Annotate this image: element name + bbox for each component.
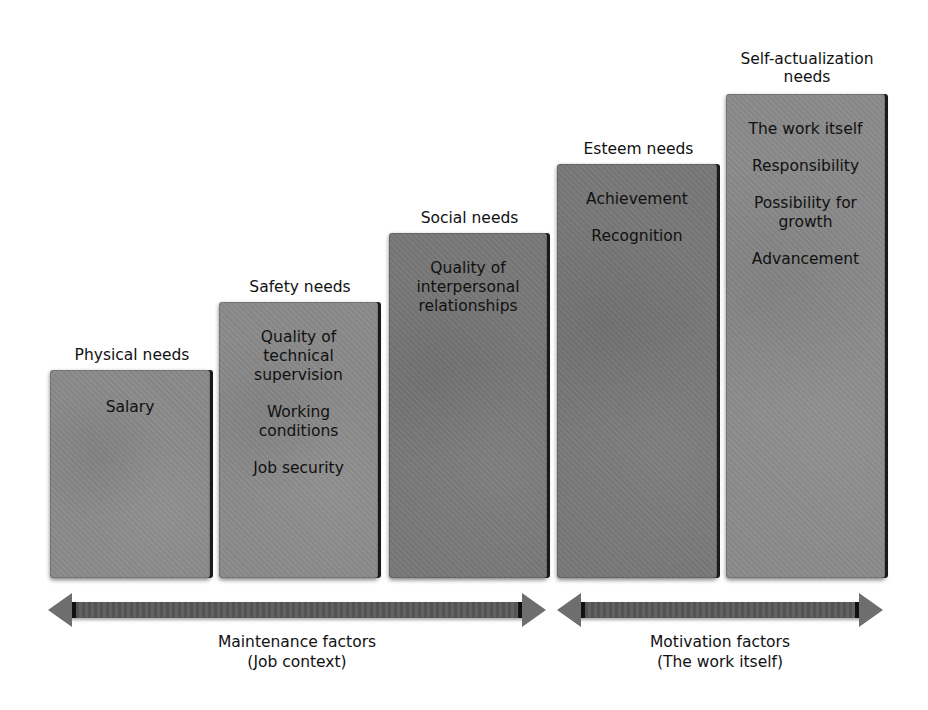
arrow-head-right-icon [859,593,883,627]
step-item: Quality of technical supervision [244,328,354,385]
step-item: The work itself [726,120,885,139]
step-label-social-needs: Social needs [389,209,550,227]
maintenance-factors-label: Maintenance factors (Job context) [48,632,546,672]
arrow-shaft [579,602,861,618]
step-item: Responsibility [726,157,885,176]
factor-subtitle: (Job context) [48,652,546,672]
step-label-safety-needs: Safety needs [219,278,381,296]
step-item: Achievement [557,190,717,209]
factor-title: Motivation factors [557,632,883,652]
step-item: Quality of interpersonal relationships [405,259,531,316]
arrow-head-left-icon [48,593,72,627]
step-item: Possibility for growth [741,194,871,232]
arrow-head-left-icon [557,593,581,627]
step-item: Salary [50,398,210,417]
arrow-shaft [70,602,524,618]
maintenance-factors-arrow [48,593,546,627]
step-label-self-actualization-needs: Self-actualization needs [726,50,888,86]
step-item: Recognition [557,227,717,246]
factor-subtitle: (The work itself) [557,652,883,672]
step-physical-needs: Salary [50,370,210,578]
motivation-factors-label: Motivation factors (The work itself) [557,632,883,672]
step-esteem-needs: Achievement Recognition [557,164,717,578]
step-social-needs: Quality of interpersonal relationships [389,233,547,578]
factor-title: Maintenance factors [48,632,546,652]
step-label-esteem-needs: Esteem needs [557,140,720,158]
step-item: Job security [233,459,364,478]
step-label-physical-needs: Physical needs [50,346,214,364]
step-self-actualization-needs: The work itself Responsibility Possibili… [726,94,885,578]
arrow-head-right-icon [522,593,546,627]
step-safety-needs: Quality of technical supervision Working… [219,302,378,578]
step-item: Advancement [726,250,885,269]
motivation-factors-arrow [557,593,883,627]
step-item: Working conditions [244,403,354,441]
